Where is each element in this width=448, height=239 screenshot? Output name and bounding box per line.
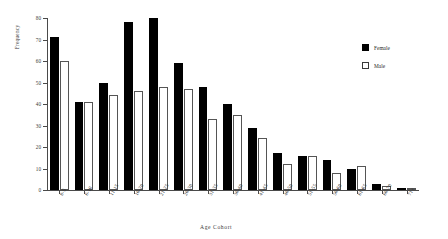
- bar-female-51-55: [298, 156, 307, 190]
- y-axis-tick-label: 40: [36, 101, 41, 107]
- bar-female-56-60: [323, 160, 332, 190]
- bar-male-11-15: [109, 95, 118, 190]
- bar-female-0-5: [50, 37, 59, 190]
- bar-chart: Frequency Age Cohort 01020304050607080 F…: [0, 0, 448, 239]
- bar-male-16-20: [134, 91, 143, 190]
- x-axis-category-label: 0-5: [59, 188, 67, 197]
- bar-female-6-10: [75, 102, 84, 190]
- bar-group: [320, 18, 345, 190]
- bar-female-31-35: [199, 87, 208, 190]
- bar-group: [196, 18, 221, 190]
- y-axis-title: Frequency: [14, 2, 20, 72]
- bar-female-66-70: [372, 184, 381, 190]
- y-axis-tick-label: 20: [36, 144, 41, 150]
- bar-group: [295, 18, 320, 190]
- bar-female-26-30: [174, 63, 183, 190]
- y-axis-tick-label: 0: [38, 187, 41, 193]
- bar-group: [121, 18, 146, 190]
- bar-group: [97, 18, 122, 190]
- bar-male-31-35: [208, 119, 217, 190]
- bar-female-61-65: [347, 169, 356, 191]
- bar-group: [394, 18, 419, 190]
- y-axis-tick-label: 60: [36, 58, 41, 64]
- y-axis-tick-label: 70: [36, 37, 41, 43]
- legend-label-female: Female: [374, 45, 390, 51]
- bar-group: [245, 18, 270, 190]
- bar-female-46-50: [273, 153, 282, 190]
- bar-female-16-20: [124, 22, 133, 190]
- bar-female-41-45: [248, 128, 257, 190]
- bar-male-6-10: [84, 102, 93, 190]
- bar-group: [171, 18, 196, 190]
- bar-male-26-30: [184, 89, 193, 190]
- bar-male-21-25: [159, 87, 168, 190]
- bar-female-36-40: [223, 104, 232, 190]
- legend-item-female: Female: [362, 44, 390, 51]
- y-axis-tick-label: 80: [36, 15, 41, 21]
- bar-group: [221, 18, 246, 190]
- bar-group: [146, 18, 171, 190]
- legend-swatch-female-icon: [362, 44, 369, 51]
- bar-female-71+: [397, 188, 406, 190]
- bar-male-0-5: [60, 61, 69, 190]
- y-axis-tick-label: 50: [36, 80, 41, 86]
- chart-legend: Female Male: [362, 44, 390, 80]
- y-axis-tick-label: 30: [36, 123, 41, 129]
- legend-label-male: Male: [374, 63, 385, 69]
- bar-female-11-15: [99, 83, 108, 191]
- bar-male-41-45: [258, 138, 267, 190]
- y-axis-tick-label: 10: [36, 166, 41, 172]
- bar-male-36-40: [233, 115, 242, 190]
- bar-group: [270, 18, 295, 190]
- legend-item-male: Male: [362, 62, 390, 69]
- bar-female-21-25: [149, 18, 158, 190]
- legend-swatch-male-icon: [362, 62, 369, 69]
- y-axis-tick: [43, 190, 47, 191]
- x-axis-title: Age Cohort: [200, 224, 232, 230]
- bar-group: [47, 18, 72, 190]
- bar-group: [72, 18, 97, 190]
